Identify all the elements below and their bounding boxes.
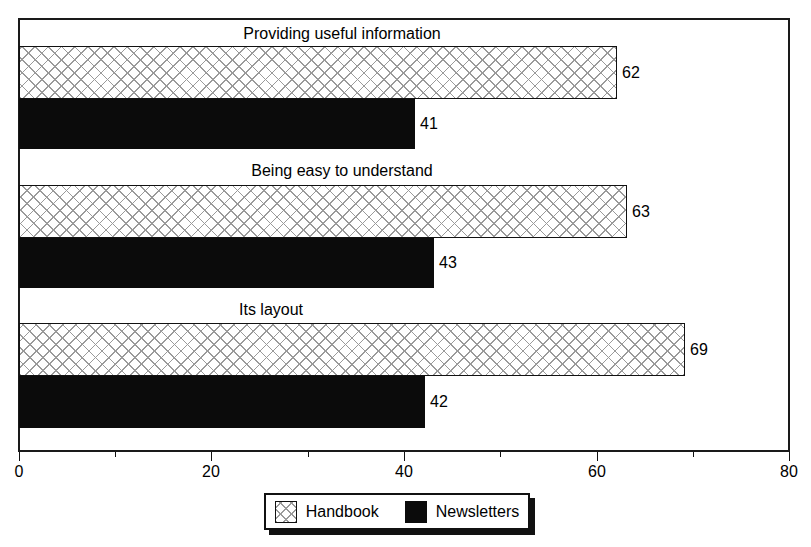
x-tick-20: [211, 452, 212, 461]
bar-value-handbook-2: 69: [690, 342, 708, 358]
x-tick-label-0: 0: [0, 463, 49, 480]
bar-handbook-1: [19, 185, 627, 238]
legend-label-handbook: Handbook: [306, 503, 379, 520]
x-tick-30: [308, 452, 309, 457]
bar-value-newsletters-1: 43: [439, 255, 457, 271]
x-tick-50: [500, 452, 501, 457]
legend-item-handbook: Handbook: [275, 501, 379, 523]
x-tick-0: [19, 452, 20, 461]
x-tick-label-60: 60: [567, 463, 627, 480]
bar-newsletters-2: [19, 376, 425, 428]
bar-newsletters-1: [19, 238, 434, 288]
x-tick-label-80: 80: [759, 463, 811, 480]
x-tick-60: [597, 452, 598, 461]
plot-area: Providing useful information 62 41 Being…: [18, 18, 790, 452]
bar-value-newsletters-0: 41: [420, 116, 438, 132]
x-tick-label-40: 40: [374, 463, 434, 480]
bar-handbook-0: [19, 46, 617, 99]
bar-handbook-2: [19, 323, 685, 376]
x-tick-10: [115, 452, 116, 457]
x-tick-80: [789, 452, 790, 461]
legend-swatch-solid-icon: [405, 501, 427, 523]
category-label-2: Its layout: [61, 301, 481, 319]
x-axis: 0 20 40 60 80: [0, 452, 811, 492]
bar-newsletters-0: [19, 99, 415, 149]
x-tick-40: [404, 452, 405, 461]
x-tick-label-20: 20: [181, 463, 241, 480]
legend: Handbook Newsletters: [264, 493, 530, 530]
bar-value-handbook-1: 63: [632, 204, 650, 220]
legend-item-newsletters: Newsletters: [405, 501, 520, 523]
legend-swatch-crosshatch-icon: [275, 501, 297, 523]
category-label-1: Being easy to understand: [132, 162, 552, 180]
bar-value-handbook-0: 62: [622, 65, 640, 81]
bar-value-newsletters-2: 42: [430, 394, 448, 410]
bar-chart: Providing useful information 62 41 Being…: [0, 0, 811, 547]
legend-label-newsletters: Newsletters: [436, 503, 520, 520]
x-tick-70: [693, 452, 694, 457]
category-label-0: Providing useful information: [132, 25, 552, 43]
